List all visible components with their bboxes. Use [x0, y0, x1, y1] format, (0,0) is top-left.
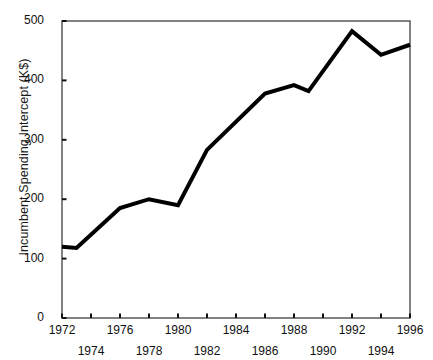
y-axis-tick-label-row: 500 — [0, 13, 52, 27]
y-axis-tick-label: 400 — [0, 72, 52, 86]
y-axis-tick-label: 100 — [0, 251, 52, 265]
y-axis-tick-label: 300 — [0, 132, 52, 146]
x-axis-tick-label: 1984 — [223, 323, 250, 337]
x-axis-tick-label: 1978 — [136, 344, 163, 358]
x-axis-tick-label: 1988 — [281, 323, 308, 337]
x-axis-tick-label: 1986 — [252, 344, 279, 358]
x-axis-tick-label: 1982 — [194, 344, 221, 358]
y-axis-tick-label: 0 — [0, 310, 52, 324]
y-axis-tick-label-row: 300 — [0, 132, 52, 146]
x-axis-tick-label: 1996 — [397, 323, 424, 337]
chart-figure: Incumbent Spending Intercept (K$) 010020… — [0, 0, 433, 360]
data-line-series-0 — [62, 31, 410, 248]
line-chart-plot — [0, 0, 433, 360]
y-axis-tick-label-row: 400 — [0, 72, 52, 86]
x-axis-tick-label: 1976 — [107, 323, 134, 337]
x-axis-tick-label: 1974 — [78, 344, 105, 358]
y-axis-tick-label: 200 — [0, 191, 52, 205]
plot-frame — [62, 21, 410, 318]
y-axis-tick-label: 500 — [0, 13, 52, 27]
x-axis-tick-label: 1994 — [368, 344, 395, 358]
y-axis-tick-label-row: 100 — [0, 251, 52, 265]
x-axis-tick-label: 1990 — [310, 344, 337, 358]
y-axis-tick-label-row: 0 — [0, 310, 52, 324]
x-axis-tick-label: 1972 — [49, 323, 76, 337]
x-axis-tick-label: 1992 — [339, 323, 366, 337]
x-axis-tick-label: 1980 — [165, 323, 192, 337]
y-axis-tick-label-row: 200 — [0, 191, 52, 205]
